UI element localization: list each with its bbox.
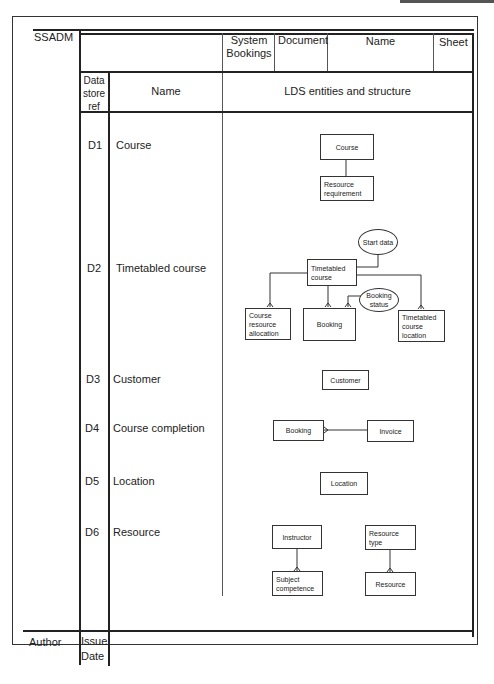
attribute-booking-status: Booking status (359, 288, 399, 312)
entity-resource-type: Resource type (365, 525, 416, 550)
entity-label: Timetabled course (311, 264, 353, 282)
attribute-label: Booking status (360, 291, 398, 309)
entity-instructor: Instructor (272, 525, 322, 549)
entity-customer: Customer (322, 370, 369, 390)
attribute-start-data: Start data (358, 229, 398, 255)
entity-invoice: Invoice (367, 420, 414, 442)
entity-label: Course (336, 143, 359, 152)
entity-booking: Booking (273, 420, 324, 441)
entity-label: Booking (317, 320, 342, 329)
entity-label: Location (331, 479, 357, 488)
relationship-lines (0, 0, 494, 684)
entity-label: Resource type (369, 529, 412, 547)
entity-label: Invoice (379, 427, 401, 436)
entity-booking: Booking (303, 308, 356, 341)
entity-course: Course (320, 134, 374, 160)
entity-timetabled-course: Timetabled course (307, 259, 357, 286)
entity-timetabled-course-location: Timetabled course location (398, 310, 445, 342)
entity-resource: Resource (365, 572, 416, 596)
entity-label: Booking (286, 426, 311, 435)
entity-location: Location (320, 472, 368, 495)
entity-subject-competence: Subject competence (272, 571, 323, 596)
entity-label: Course resource allocation (249, 311, 287, 338)
entity-course-resource-allocation: Course resource allocation (245, 308, 291, 340)
entity-label: Customer (330, 376, 360, 385)
entity-label: Instructor (282, 533, 311, 542)
entity-label: Resource requirement (324, 180, 370, 198)
entity-label: Timetabled course location (402, 313, 441, 340)
entity-label: Subject competence (276, 575, 319, 593)
entity-label: Resource (376, 580, 406, 589)
attribute-label: Start data (363, 238, 393, 247)
entity-resource-requirement: Resource requirement (320, 176, 374, 201)
